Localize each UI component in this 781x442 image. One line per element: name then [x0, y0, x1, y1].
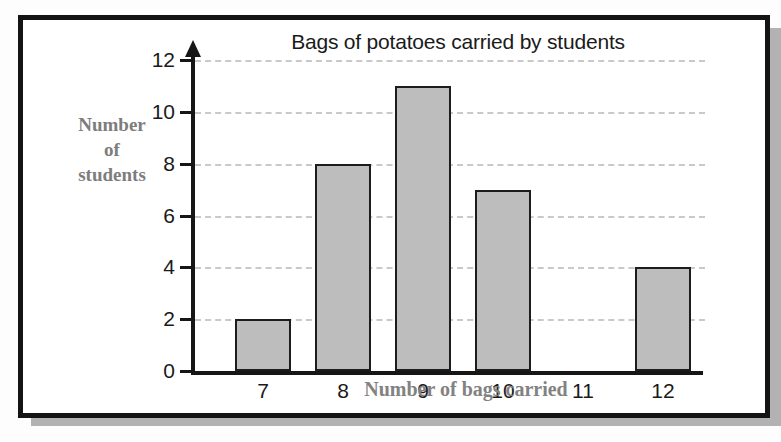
y-axis-tick	[180, 59, 192, 62]
y-axis-tick-label: 6	[135, 204, 175, 228]
y-axis-tick	[180, 111, 192, 114]
plot-area: 024681012 789101112	[191, 38, 711, 358]
y-axis-tick-label: 4	[135, 255, 175, 279]
y-axis-tick	[180, 215, 192, 218]
page-background: Bags of potatoes carried by students Num…	[0, 0, 781, 442]
y-axis-tick-label: 2	[135, 307, 175, 331]
y-axis-tick-label: 12	[135, 48, 175, 72]
y-axis-tick-label: 8	[135, 152, 175, 176]
y-axis-tick	[180, 370, 192, 373]
figure-frame: Bags of potatoes carried by students Num…	[18, 15, 770, 418]
x-axis-title: Number of bags carried	[211, 378, 721, 401]
bar	[315, 164, 371, 371]
y-axis-line	[191, 46, 195, 374]
y-axis-tick	[180, 163, 192, 166]
bar	[475, 190, 531, 371]
bar-chart: Bags of potatoes carried by students Num…	[23, 20, 765, 413]
y-axis-tick	[180, 266, 192, 269]
bar	[235, 319, 291, 371]
y-axis-tick-label: 10	[135, 100, 175, 124]
bar	[635, 267, 691, 371]
y-axis-arrow-icon	[185, 40, 201, 57]
y-axis-tick-label: 0	[135, 359, 175, 383]
x-axis-line	[191, 371, 703, 375]
bar	[395, 86, 451, 371]
gridline	[195, 60, 705, 62]
y-axis-tick	[180, 318, 192, 321]
